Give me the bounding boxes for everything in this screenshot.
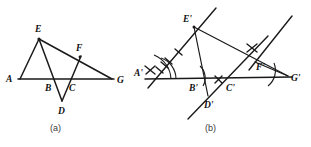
segment-A-E bbox=[20, 39, 39, 79]
ray-Aprime-Eprime-extended bbox=[148, 8, 216, 88]
point-label-G-prime: G' bbox=[291, 73, 301, 83]
figure-svg-canvas: A B C D E F G (a) bbox=[0, 0, 311, 147]
point-label-A: A bbox=[5, 74, 12, 84]
point-label-E-prime: E' bbox=[182, 14, 192, 24]
vertex-dot-F bbox=[79, 56, 82, 59]
panel-a-caption: (a) bbox=[50, 123, 61, 133]
point-label-C-prime: C' bbox=[226, 83, 235, 93]
geometry-figure-root: A B C D E F G (a) bbox=[0, 0, 311, 147]
vertex-dot-Eprime bbox=[193, 26, 196, 29]
tick-double-on-AE-3 bbox=[156, 67, 163, 73]
point-label-B-prime: B' bbox=[188, 83, 198, 93]
point-label-E: E bbox=[34, 24, 41, 34]
point-label-C: C bbox=[69, 83, 76, 93]
segment-Eprime-Gprime bbox=[194, 27, 288, 76]
point-label-D-prime: D' bbox=[203, 100, 214, 110]
point-label-A-prime: A' bbox=[133, 68, 143, 78]
point-label-G: G bbox=[117, 75, 124, 85]
point-label-F-prime: F' bbox=[255, 62, 265, 72]
point-label-B: B bbox=[44, 83, 51, 93]
panel-b-caption: (b) bbox=[205, 123, 216, 133]
vertex-dot-E bbox=[37, 37, 40, 40]
point-label-F: F bbox=[75, 43, 83, 53]
panel-b-group: A' B' C' D' E' F' G' (b) bbox=[133, 8, 301, 133]
point-label-D: D bbox=[57, 106, 65, 116]
panel-a-group: A B C D E F G (a) bbox=[5, 24, 124, 133]
